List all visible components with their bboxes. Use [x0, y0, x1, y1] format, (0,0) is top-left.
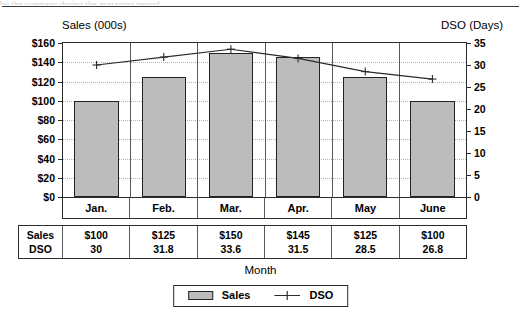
left-tick-label: $60	[37, 134, 55, 144]
table-cell: 28.5	[355, 242, 375, 256]
legend-line-plus-icon	[274, 290, 300, 301]
left-tick-label: $0	[43, 192, 55, 202]
category-divider	[197, 43, 198, 197]
data-table: SalesDSO $10030$12531.8$15033.6$14531.5$…	[18, 225, 467, 259]
table-columns: $10030$12531.8$15033.6$14531.5$12528.5$1…	[63, 226, 466, 258]
table-row-header: Sales	[27, 228, 54, 242]
legend-label-sales: Sales	[222, 290, 251, 301]
month-label-row: Jan.Feb.Mar.Apr.MayJune	[62, 198, 467, 219]
left-axis-title: Sales (000s)	[62, 19, 127, 31]
table-cell: 30	[90, 242, 102, 256]
right-tick-label: 5	[474, 170, 480, 180]
table-column-june: $10026.8	[400, 226, 466, 258]
table-cell: $100	[421, 228, 444, 242]
category-divider	[130, 43, 131, 197]
bar-may	[343, 77, 387, 197]
category-divider	[399, 43, 400, 197]
left-tick-label: $80	[37, 115, 55, 125]
left-tick-mark	[58, 43, 62, 44]
right-tick-mark	[467, 175, 471, 176]
bar-june	[410, 101, 454, 197]
right-tick-label: 25	[474, 82, 486, 92]
left-tick-mark	[58, 120, 62, 121]
left-tick-label: $100	[32, 96, 55, 106]
left-tick-mark	[58, 101, 62, 102]
left-tick-mark	[58, 82, 62, 83]
category-divider	[265, 43, 266, 197]
bar-feb	[142, 77, 186, 197]
left-tick-label: $20	[37, 173, 55, 183]
header-rule	[2, 6, 519, 7]
table-column-feb: $12531.8	[130, 226, 197, 258]
legend-label-dso: DSO	[309, 290, 333, 301]
left-tick-mark	[58, 139, 62, 140]
month-label-apr: Apr.	[265, 198, 332, 218]
chart-legend: Sales DSO	[173, 285, 349, 307]
table-column-may: $12528.5	[332, 226, 399, 258]
x-axis-title: Month	[0, 264, 521, 276]
table-cell: 26.8	[423, 242, 443, 256]
left-tick-label: $160	[32, 38, 55, 48]
plot-area	[62, 42, 467, 198]
category-divider	[332, 43, 333, 197]
table-cell: $145	[286, 228, 309, 242]
table-cell: 31.8	[153, 242, 173, 256]
table-row-headers: SalesDSO	[19, 226, 63, 258]
left-tick-label: $40	[37, 154, 55, 164]
legend-swatch-sales	[188, 291, 213, 300]
right-tick-mark	[467, 109, 471, 110]
right-tick-label: 0	[474, 192, 480, 202]
table-cell: $125	[152, 228, 175, 242]
bar-apr	[276, 57, 320, 197]
bar-jan	[74, 101, 118, 197]
left-tick-mark	[58, 62, 62, 63]
table-cell: $125	[354, 228, 377, 242]
table-cell: $150	[219, 228, 242, 242]
left-tick-mark	[58, 178, 62, 179]
left-tick-mark	[58, 159, 62, 160]
left-tick-label: $140	[32, 57, 55, 67]
month-label-mar: Mar.	[198, 198, 265, 218]
table-cell: $100	[84, 228, 107, 242]
month-label-jan: Jan.	[63, 198, 130, 218]
table-cell: 33.6	[221, 242, 241, 256]
right-tick-label: 15	[474, 126, 486, 136]
right-tick-label: 10	[474, 148, 486, 158]
right-tick-label: 35	[474, 38, 486, 48]
right-tick-label: 30	[474, 60, 486, 70]
right-tick-mark	[467, 197, 471, 198]
right-tick-label: 20	[474, 104, 486, 114]
right-tick-mark	[467, 43, 471, 44]
month-label-june: June	[400, 198, 466, 218]
table-row-header: DSO	[29, 242, 52, 256]
plot-inner	[63, 43, 466, 197]
right-axis-title: DSO (Days)	[441, 19, 503, 31]
table-column-jan: $10030	[63, 226, 130, 258]
table-column-mar: $15033.6	[198, 226, 265, 258]
right-tick-mark	[467, 65, 471, 66]
month-label-may: May	[332, 198, 399, 218]
right-tick-mark	[467, 131, 471, 132]
table-column-apr: $14531.5	[265, 226, 332, 258]
left-tick-label: $120	[32, 77, 55, 87]
month-label-feb: Feb.	[130, 198, 197, 218]
page-text-sliver: by the company during the averaging peri…	[0, 0, 521, 5]
right-tick-mark	[467, 87, 471, 88]
bar-mar	[209, 53, 253, 197]
table-cell: 31.5	[288, 242, 308, 256]
right-tick-mark	[467, 153, 471, 154]
